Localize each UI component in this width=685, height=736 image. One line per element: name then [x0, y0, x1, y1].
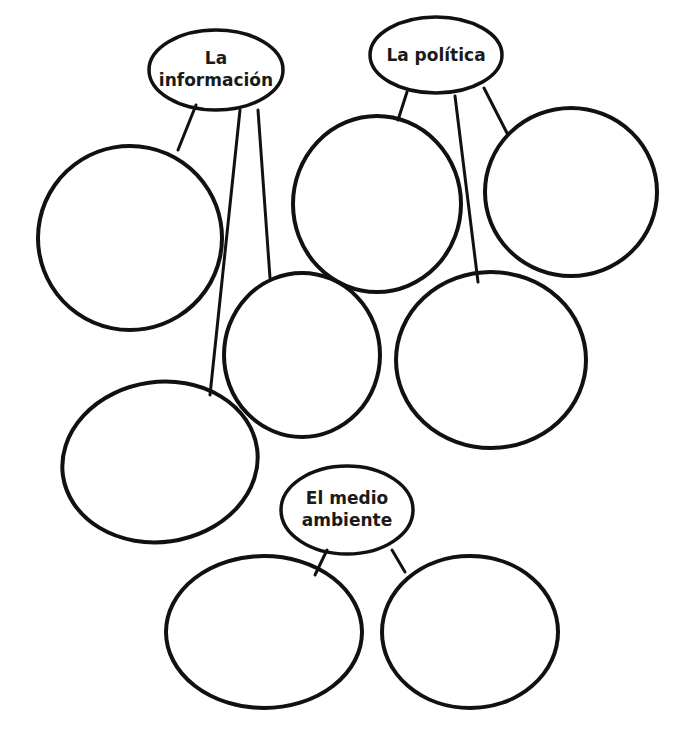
connector-line [258, 110, 270, 278]
connector-line [178, 105, 196, 150]
hub-label-politica: La política [370, 44, 502, 66]
connector-line [484, 88, 508, 135]
answer-bubble [485, 108, 657, 276]
answer-bubble [23, 131, 236, 344]
connector-line [398, 92, 407, 120]
answer-bubble [396, 272, 586, 448]
answer-bubble [293, 116, 461, 292]
connector-line [392, 550, 405, 572]
hub-label-medio-ambiente: El medio ambiente [281, 487, 413, 531]
hub-label-line: El medio [281, 487, 413, 509]
hub-label-line: ambiente [281, 509, 413, 531]
hub-label-line: información [150, 69, 282, 91]
hub-label-informacion: La información [150, 47, 282, 91]
word-web-diagram [0, 0, 685, 736]
answer-bubble [224, 273, 380, 437]
hub-label-line: La política [370, 44, 502, 66]
answer-bubble [166, 556, 362, 708]
hub-label-line: La [150, 47, 282, 69]
answer-bubble [382, 556, 558, 708]
